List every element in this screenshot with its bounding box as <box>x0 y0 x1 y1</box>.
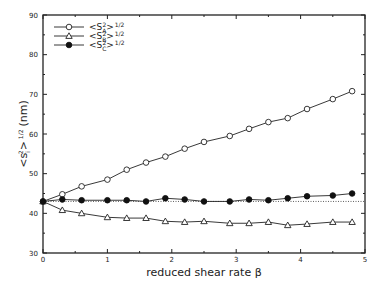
y-tick-label: 80 <box>29 51 38 59</box>
open-circle-marker-icon <box>66 24 72 30</box>
x-tick-label: 3 <box>234 256 238 264</box>
data-point <box>163 195 169 201</box>
x-tick-label: 4 <box>298 256 303 264</box>
data-point <box>227 199 233 205</box>
data-point <box>40 199 46 205</box>
data-point <box>59 207 65 213</box>
data-point <box>285 115 291 121</box>
data-point <box>330 193 336 199</box>
y-tick-label: 50 <box>29 170 38 178</box>
series-a <box>40 88 355 204</box>
data-point <box>266 119 272 125</box>
data-point <box>79 184 85 190</box>
data-point <box>163 154 169 160</box>
data-point <box>60 197 66 203</box>
data-point <box>304 106 310 112</box>
data-point <box>201 199 207 205</box>
y-tick-label: 60 <box>29 131 38 139</box>
data-point <box>182 197 188 203</box>
data-point <box>105 197 111 203</box>
data-point <box>266 197 272 203</box>
data-point <box>143 160 149 166</box>
data-point <box>227 133 233 139</box>
y-tick-label: 40 <box>29 210 38 218</box>
data-point <box>246 126 252 132</box>
series-line <box>43 201 352 225</box>
data-series <box>40 88 356 227</box>
y-tick-label: 30 <box>29 250 38 258</box>
data-point <box>265 219 271 225</box>
data-point <box>201 218 207 224</box>
series-b <box>40 198 356 227</box>
data-point <box>330 96 336 102</box>
series-c <box>40 191 355 205</box>
legend-item: <SC2>1/2 <box>54 39 125 52</box>
data-point <box>105 177 111 183</box>
data-point <box>304 193 310 199</box>
x-tick-label: 5 <box>363 256 367 264</box>
line-chart: 01234530405060708090 <SA2>1/2<SB2>1/2<SC… <box>0 0 377 287</box>
data-point <box>124 167 130 173</box>
data-point <box>182 146 188 152</box>
y-tick-label: 70 <box>29 91 38 99</box>
data-point <box>201 139 207 145</box>
data-point <box>124 197 130 203</box>
data-point <box>143 199 149 205</box>
legend-label: <SC2>1/2 <box>89 39 125 52</box>
data-point <box>246 197 252 203</box>
legend: <SA2>1/2<SB2>1/2<SC2>1/2 <box>54 21 125 52</box>
x-axis-title: reduced shear rate β <box>146 266 261 279</box>
plot-axes: 01234530405060708090 <box>29 12 367 265</box>
data-point <box>79 197 85 203</box>
x-tick-label: 0 <box>41 256 45 264</box>
y-tick-label: 90 <box>29 12 38 20</box>
data-point <box>349 88 355 94</box>
x-tick-label: 1 <box>105 256 109 264</box>
data-point <box>285 195 291 201</box>
data-point <box>349 191 355 197</box>
filled-circle-marker-icon <box>66 42 72 48</box>
x-tick-label: 2 <box>170 256 174 264</box>
